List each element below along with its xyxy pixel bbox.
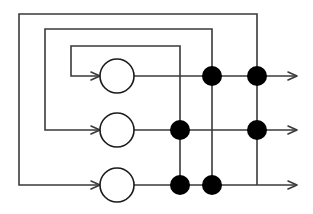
feedback-loop-outer xyxy=(19,14,257,185)
junction-dot-r2-c3 xyxy=(247,120,267,140)
diagram-canvas xyxy=(0,0,313,214)
node-circle-1 xyxy=(100,59,134,93)
node-circles xyxy=(100,59,134,202)
signal-flow-graph xyxy=(0,0,313,214)
feedback-loop-outer-path xyxy=(19,14,257,185)
junction-dot-r1-c3 xyxy=(247,66,267,86)
junction-dot-r2-c1 xyxy=(170,120,190,140)
node-circle-3 xyxy=(100,168,134,202)
row-signal-lines xyxy=(134,76,297,185)
junction-dot-r3-c2 xyxy=(202,175,222,195)
node-circle-2 xyxy=(100,113,134,147)
junction-dot-r1-c2 xyxy=(202,66,222,86)
junction-dot-r3-c1 xyxy=(170,175,190,195)
